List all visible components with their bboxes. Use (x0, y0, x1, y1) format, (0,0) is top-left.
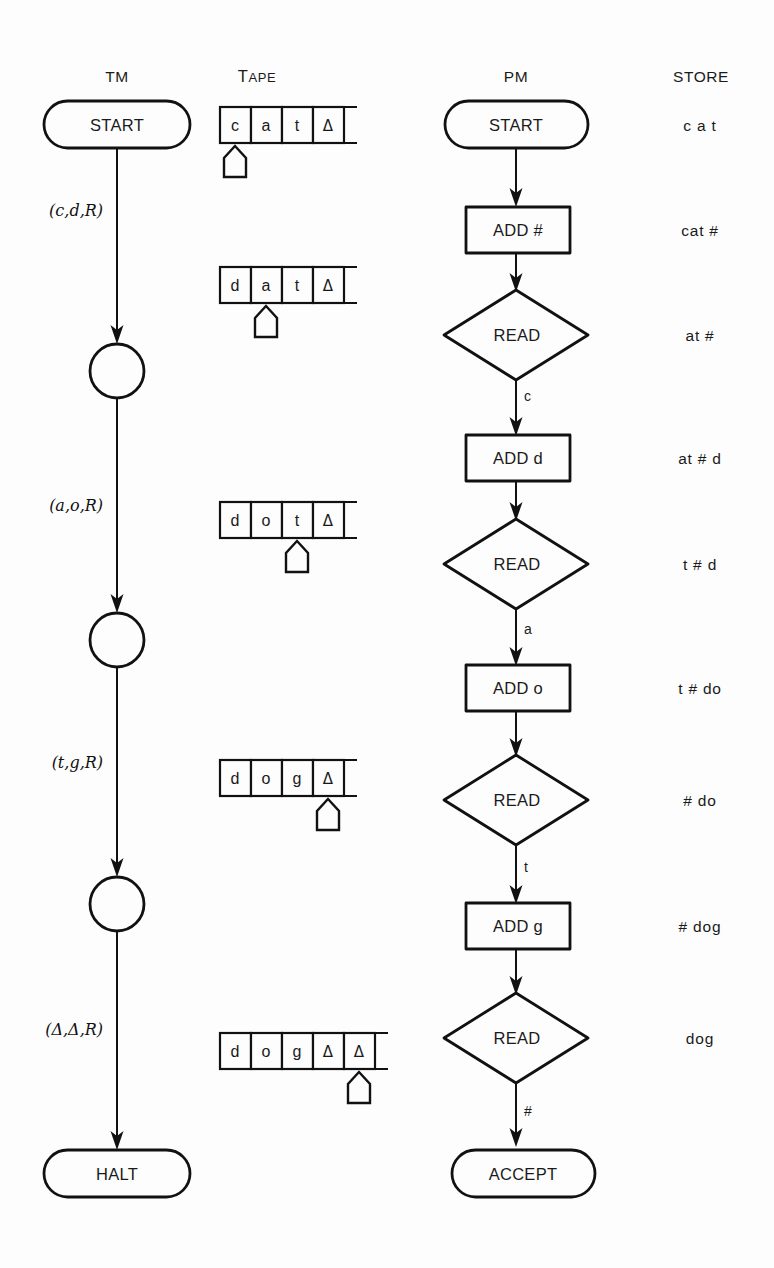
tm-node-start-label: START (90, 116, 144, 134)
tape-snapshot-3: d o t Δ (220, 502, 357, 572)
pm-node-add-hash-label: ADD # (493, 221, 544, 239)
tm-edge-4-label: (Δ,Δ,R) (45, 1020, 103, 1039)
pm-node-add-g-label: ADD g (493, 917, 543, 935)
tape-4-cell-1: o (262, 770, 271, 787)
column-header-tape: TAPE (238, 67, 277, 85)
column-header-pm: PM (504, 68, 528, 85)
pm-connector-add-d-to-read-2 (510, 481, 523, 521)
pm-node-read-1[interactable]: READ (444, 290, 588, 380)
tape-4-cell-3: Δ (323, 770, 334, 788)
store-value-9: dog (686, 1030, 714, 1047)
pm-connector-read-4-to-accept: # (510, 1083, 533, 1147)
tape-snapshot-1: c a t Δ (220, 107, 357, 177)
tape-3-cell-2: t (295, 512, 300, 529)
pm-connector-read-1-to-add-d: c (510, 380, 532, 436)
column-header-tm: TM (105, 68, 129, 85)
tm-node-halt-label: HALT (96, 1165, 138, 1183)
svg-text:TAPE: TAPE (238, 67, 277, 85)
pm-branch-label-c: c (524, 388, 531, 404)
store-value-3: at # (685, 327, 714, 344)
pm-node-accept-label: ACCEPT (489, 1165, 558, 1183)
pm-node-add-g[interactable]: ADD g (466, 903, 570, 949)
pm-node-accept[interactable]: ACCEPT (452, 1150, 595, 1197)
tm-edge-2-label: (a,o,R) (49, 496, 103, 515)
pm-node-read-2[interactable]: READ (444, 519, 588, 609)
column-header-tape-rest: APE (248, 70, 276, 85)
tape-2-head-pointer (255, 306, 277, 337)
tape-1-head-pointer (224, 146, 246, 177)
tape-5-cell-0: d (231, 1043, 240, 1060)
pm-branch-label-t: t (524, 859, 528, 875)
tape-3-head-pointer (286, 541, 308, 572)
store-value-7: # do (683, 792, 716, 809)
column-headers: TM TAPE PM STORE (105, 67, 729, 85)
pm-node-read-2-label: READ (493, 555, 540, 573)
pm-connector-start-to-add-hash (510, 148, 523, 207)
tm-node-state-3[interactable] (90, 877, 144, 931)
store-value-5: t # d (683, 556, 717, 573)
tape-1-cell-0: c (231, 117, 239, 134)
tape-snapshot-5: d o g Δ Δ (220, 1033, 388, 1103)
pm-node-add-o-label: ADD o (493, 679, 543, 697)
store-value-2: cat # (681, 222, 719, 239)
store-value-8: # dog (679, 918, 722, 935)
store-value-1: c a t (683, 117, 716, 134)
tape-5-cell-2: g (293, 1043, 302, 1060)
pm-node-add-hash[interactable]: ADD # (466, 207, 570, 253)
pm-flowchart: START ADD # READ c ADD d (444, 101, 595, 1197)
pm-node-start[interactable]: START (445, 101, 588, 148)
tape-snapshot-2: d a t Δ (220, 267, 357, 337)
tape-1-cell-3: Δ (323, 117, 334, 135)
column-header-tape-first: T (238, 67, 249, 85)
tape-2-cell-0: d (231, 277, 240, 294)
tm-edge-4: (Δ,Δ,R) (45, 931, 123, 1150)
pm-node-start-label: START (489, 116, 543, 134)
tm-edge-2: (a,o,R) (49, 398, 123, 613)
tape-4-head-pointer (317, 799, 339, 830)
tape-5-head-pointer (348, 1072, 370, 1103)
tm-node-state-2[interactable] (90, 613, 144, 667)
tape-1-cell-1: a (262, 117, 271, 134)
column-header-store: STORE (673, 68, 729, 85)
tm-node-start[interactable]: START (44, 101, 190, 148)
pm-node-add-d-label: ADD d (493, 449, 543, 467)
pm-connector-add-g-to-read-4 (510, 949, 523, 995)
tm-edge-1-label: (c,d,R) (49, 201, 103, 220)
pm-node-read-3[interactable]: READ (444, 755, 588, 845)
pm-connector-add-hash-to-read-1 (510, 253, 523, 292)
tm-edge-1: (c,d,R) (49, 148, 123, 344)
pm-connector-read-2-to-add-o: a (510, 609, 533, 666)
store-value-6: t # do (678, 680, 722, 697)
pm-node-add-o[interactable]: ADD o (466, 665, 570, 711)
tape-2-cell-2: t (295, 277, 300, 294)
tape-snapshot-4: d o g Δ (220, 760, 357, 830)
tape-diagrams: c a t Δ d a t Δ d (220, 107, 388, 1103)
tape-5-cell-4: Δ (354, 1043, 365, 1061)
tape-4-cell-0: d (231, 770, 240, 787)
tape-4-cell-2: g (293, 770, 302, 787)
tape-3-cell-0: d (231, 512, 240, 529)
pm-branch-label-a: a (524, 621, 532, 637)
pm-branch-label-hash: # (524, 1103, 532, 1119)
tape-1-cell-2: t (295, 117, 300, 134)
pm-node-add-d[interactable]: ADD d (466, 435, 570, 481)
pm-connector-add-o-to-read-3 (510, 711, 523, 757)
figure-canvas: TM TAPE PM STORE START (c,d,R) (0, 0, 774, 1268)
pm-node-read-3-label: READ (493, 791, 540, 809)
tape-3-cell-1: o (262, 512, 271, 529)
pm-node-read-1-label: READ (493, 326, 540, 344)
tape-5-cell-3: Δ (323, 1043, 334, 1061)
tape-2-cell-3: Δ (323, 277, 334, 295)
tm-node-state-1[interactable] (90, 344, 144, 398)
tape-3-cell-3: Δ (323, 512, 334, 530)
store-value-4: at # d (678, 450, 722, 467)
tape-2-cell-1: a (262, 277, 271, 294)
pm-connector-read-3-to-add-g: t (510, 845, 529, 904)
tm-node-halt[interactable]: HALT (44, 1150, 190, 1197)
tm-edge-3-label: (t,g,R) (52, 753, 103, 772)
pm-node-read-4-label: READ (493, 1029, 540, 1047)
store-column: c a t cat # at # at # d t # d t # do # d… (678, 117, 722, 1047)
pm-node-read-4[interactable]: READ (444, 993, 588, 1083)
tm-diagram: START (c,d,R) (a,o,R) (t,g,R) (44, 101, 190, 1197)
tm-edge-3: (t,g,R) (52, 667, 124, 877)
